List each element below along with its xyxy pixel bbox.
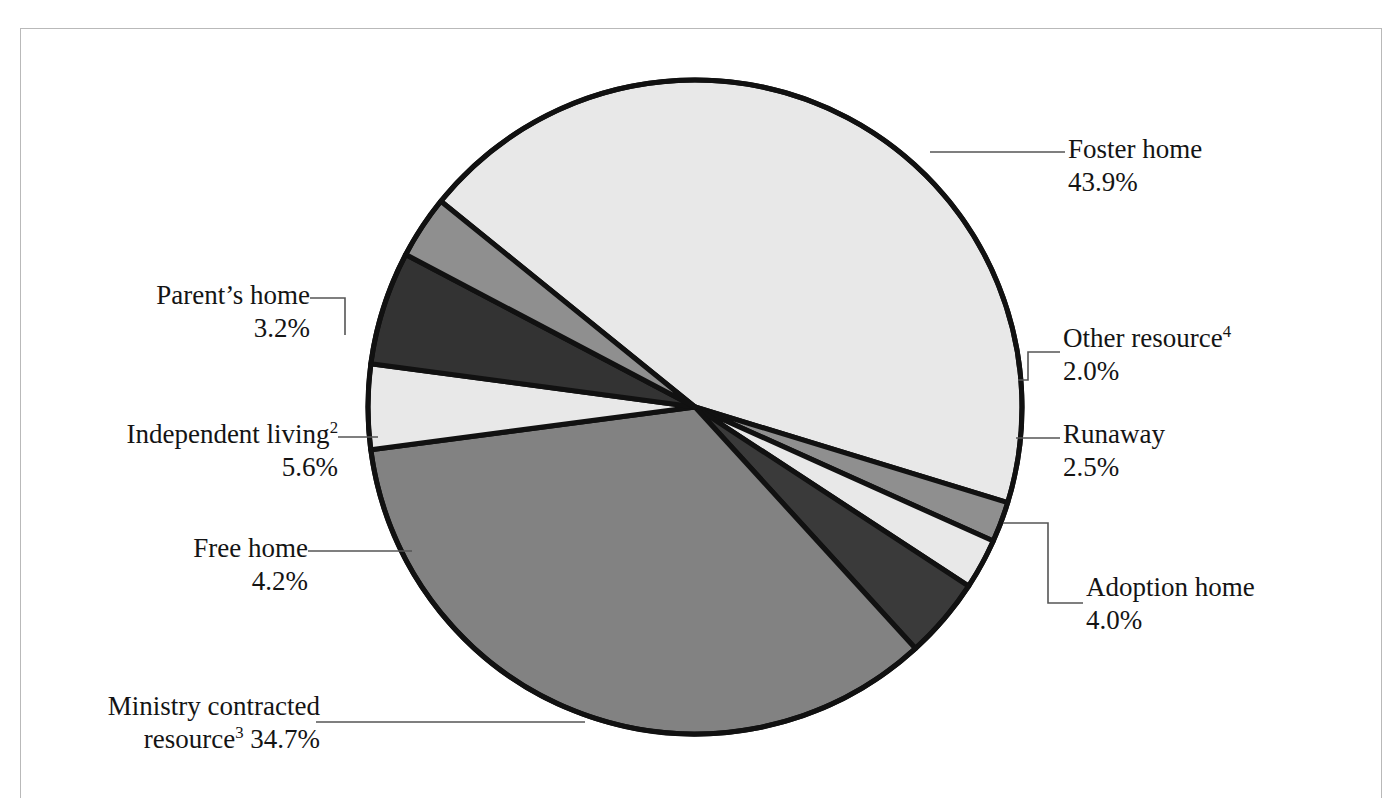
label-foster-home-percent: 43.9% [1068, 166, 1202, 199]
label-parents-home-name: Parent’s home [156, 280, 310, 310]
label-parents-home-percent: 3.2% [30, 312, 310, 345]
label-parents-home: Parent’s home 3.2% [30, 279, 310, 345]
label-runaway: Runaway 2.5% [1063, 418, 1165, 484]
label-independent-living: Independent living2 5.6% [30, 418, 338, 484]
label-other-resource-percent: 2.0% [1063, 355, 1231, 388]
label-foster-home-name: Foster home [1068, 134, 1202, 164]
label-ministry-contracted-percent: 34.7% [244, 724, 321, 754]
label-adoption-home-percent: 4.0% [1086, 604, 1255, 637]
pie-chart [0, 0, 1400, 798]
label-independent-living-percent: 5.6% [30, 451, 338, 484]
label-free-home-percent: 4.2% [30, 565, 308, 598]
label-other-resource-name: Other resource [1063, 323, 1223, 353]
label-ministry-contracted-line1: Ministry contracted [108, 691, 320, 721]
leader-line-adoption-home [1003, 523, 1083, 603]
pie-slices [368, 80, 1022, 734]
label-runaway-name: Runaway [1063, 419, 1165, 449]
label-ministry-contracted: Ministry contracted resource3 34.7% [30, 690, 320, 756]
label-independent-living-name: Independent living [126, 419, 329, 449]
label-ministry-contracted-footnote: 3 [235, 723, 243, 742]
label-other-resource-footnote: 4 [1223, 322, 1231, 341]
label-foster-home: Foster home 43.9% [1068, 133, 1202, 199]
label-ministry-contracted-prefix: resource [144, 724, 235, 754]
label-adoption-home-name: Adoption home [1086, 572, 1255, 602]
label-independent-living-footnote: 2 [330, 418, 338, 437]
label-runaway-percent: 2.5% [1063, 451, 1165, 484]
label-adoption-home: Adoption home 4.0% [1086, 571, 1255, 637]
label-free-home: Free home 4.2% [30, 532, 308, 598]
leader-line-parents-home [310, 298, 345, 335]
label-other-resource: Other resource4 2.0% [1063, 322, 1231, 388]
figure-root: Foster home 43.9% Other resource4 2.0% R… [0, 0, 1400, 798]
label-ministry-contracted-line2: resource3 34.7% [30, 723, 320, 756]
label-free-home-name: Free home [193, 533, 308, 563]
leader-line-other-resource [1018, 352, 1060, 380]
